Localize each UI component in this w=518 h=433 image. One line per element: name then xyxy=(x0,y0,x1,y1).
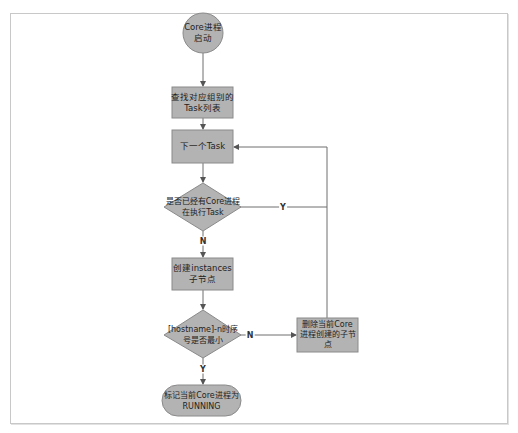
find-tasks-label: 查找对应组别的 Task列表 xyxy=(172,87,233,118)
next-task-label: 下一个Task xyxy=(172,130,233,163)
delete-node-label: 删除当前Core 进程创建的子节 点 xyxy=(297,318,358,352)
edge-label-running-yes: Y xyxy=(279,203,287,212)
check-seq-label: [hostname]-n时序 号是否最小 xyxy=(160,321,246,349)
edge-delete-loop-back xyxy=(234,147,327,318)
edge-label-running-no: N xyxy=(199,237,208,246)
start-label: Core进程 启动 xyxy=(183,13,223,53)
check-running-label: 是否已经有Core进程 在执行Task xyxy=(160,193,246,221)
edge-label-seq-yes: Y xyxy=(199,365,207,374)
flowchart-canvas xyxy=(0,0,518,433)
create-instances-label: 创建instances 子节点 xyxy=(172,258,233,290)
edge-label-seq-no: N xyxy=(246,331,255,340)
mark-running-label: 标记当前Core进程为 RUNNING xyxy=(162,385,241,416)
